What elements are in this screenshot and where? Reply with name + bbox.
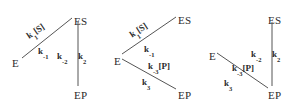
diagram-2-node-es: ES xyxy=(178,15,191,26)
diagram-3-node-ep: EP xyxy=(268,90,281,100)
rate-subscript: -3 xyxy=(153,68,158,75)
rate-subscript: -3 xyxy=(237,70,242,77)
rate-subscript: -1 xyxy=(43,53,48,60)
diagram-1-node-e: E xyxy=(12,58,19,69)
diagram-2-node-e: E xyxy=(114,56,121,67)
diagram-1-node-es: ES xyxy=(74,16,87,27)
diagram-3-rate-kminus2: k-2 xyxy=(251,50,261,59)
rate-subscript: -2 xyxy=(62,58,67,65)
rate-subscript: -1 xyxy=(149,51,154,58)
diagram-3-node-es: ES xyxy=(268,15,281,26)
rate-species: [P] xyxy=(158,61,170,71)
diagram-2-rate-kminus1: k-1 xyxy=(144,45,154,54)
rate-species: [P] xyxy=(242,63,254,73)
diagram-2-rate-k3: k3 xyxy=(142,78,150,87)
rate-subscript: -2 xyxy=(256,56,261,63)
diagram-3-rate-k2: k2 xyxy=(272,50,280,59)
rate-subscript: 2 xyxy=(277,56,280,63)
diagram-1-rate-k2: k2 xyxy=(78,52,86,61)
diagram-1-rate-kminus2: k-2 xyxy=(57,52,67,61)
diagram-2-rate-kminus3P: k-3[P] xyxy=(148,62,170,71)
diagram-3-node-e: E xyxy=(209,51,216,62)
rate-subscript: 3 xyxy=(229,85,232,92)
diagram-3-rate-kminus3P: k-3[P] xyxy=(232,64,254,73)
diagram-3-rate-k3: k3 xyxy=(224,79,232,88)
rate-subscript: 3 xyxy=(147,84,150,91)
rate-subscript: 2 xyxy=(83,58,86,65)
diagram-1-node-ep: EP xyxy=(74,90,87,100)
figure-canvas: EESEPk1[S]k-1k-2k2EESEPk1[S]k-1k-3[P]k3E… xyxy=(0,0,293,100)
diagram-2-node-ep: EP xyxy=(178,90,191,100)
diagram-1-rate-kminus1: k-1 xyxy=(38,47,48,56)
